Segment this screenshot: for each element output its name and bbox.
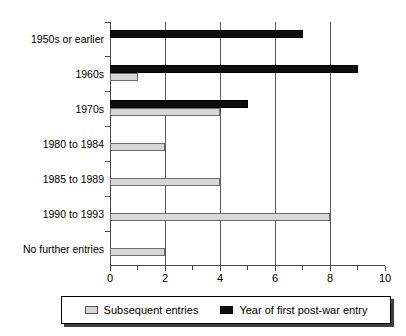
bar-dark-1950s-or-earlier: [110, 30, 303, 38]
y-axis-tick-1: [105, 56, 111, 57]
y-axis-tick-4: [105, 161, 111, 162]
y-axis-tick-top: [105, 22, 111, 23]
legend-item-year-of-first-post-war-entry[interactable]: Year of first post-war entry: [220, 304, 367, 317]
category-label-1950s-or-earlier: 1950s or earlier: [31, 33, 104, 45]
bar-light-1980-to-1984: [110, 143, 165, 151]
category-label-1980-to-1984: 1980 to 1984: [43, 138, 104, 150]
legend: Subsequent entries Year of first post-wa…: [61, 296, 391, 324]
gridline-2: [165, 22, 166, 265]
x-axis-label-8: 8: [315, 272, 345, 285]
y-axis-tick-6: [105, 231, 111, 232]
legend-swatch-light-gray-square: [85, 306, 98, 314]
legend-item-subsequent-entries[interactable]: Subsequent entries: [85, 304, 199, 317]
x-axis-label-4: 4: [205, 272, 235, 285]
x-tick-8: [330, 266, 331, 271]
bar-light-1985-to-1989: [110, 178, 220, 186]
category-label-1985-to-1989: 1985 to 1989: [43, 173, 104, 185]
x-axis-label-0: 0: [95, 272, 125, 285]
x-tick-minor-7: [302, 266, 303, 270]
legend-label-year-of-first-post-war-entry: Year of first post-war entry: [239, 304, 367, 317]
x-tick-minor-9: [357, 266, 358, 270]
y-axis-tick-3: [105, 126, 111, 127]
category-label-1970s: 1970s: [75, 103, 104, 115]
x-tick-minor-3: [192, 266, 193, 270]
x-tick-6: [275, 266, 276, 271]
category-label-1960s: 1960s: [75, 68, 104, 80]
x-tick-4: [220, 266, 221, 271]
x-tick-0: [110, 266, 111, 271]
bar-light-1970s: [110, 108, 220, 116]
y-axis-tick-2: [105, 91, 111, 92]
x-tick-minor-1: [137, 266, 138, 270]
bar-light-1990-to-1993: [110, 213, 330, 221]
legend-swatch-black-square: [220, 306, 233, 314]
gridline-6: [275, 22, 276, 265]
category-label-no-further-entries: No further entries: [23, 243, 104, 255]
legend-label-subsequent-entries: Subsequent entries: [104, 304, 199, 317]
x-axis-label-6: 6: [260, 272, 290, 285]
gridline-4: [220, 22, 221, 265]
x-tick-10: [385, 266, 386, 271]
bar-dark-1960s: [110, 65, 358, 73]
bar-light-no-further-entries: [110, 248, 165, 256]
category-label-1990-to-1993: 1990 to 1993: [43, 208, 104, 220]
gridline-8: [330, 22, 331, 265]
bar-chart: 0 2 4 6 8 10 1950s or earlier 1960s 1970…: [0, 0, 406, 336]
x-axis-label-10: 10: [370, 272, 400, 285]
bar-light-1960s: [110, 73, 138, 81]
x-tick-minor-5: [247, 266, 248, 270]
x-axis-label-2: 2: [150, 272, 180, 285]
bar-dark-1970s: [110, 100, 248, 108]
x-tick-2: [165, 266, 166, 271]
y-axis-tick-5: [105, 196, 111, 197]
